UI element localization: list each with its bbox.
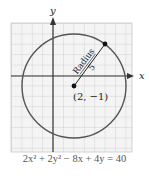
circle-point (103, 42, 108, 47)
center-label: (2, −1) (73, 91, 108, 102)
center-point (72, 84, 77, 89)
y-axis-label: y (49, 5, 56, 16)
grid (11, 23, 132, 152)
circle-diagram: x y Radius 5 (2, −1) (0, 0, 149, 176)
x-axis-label: x (139, 70, 145, 81)
y-axis-arrow-icon (50, 17, 56, 25)
equation: 2x² + 2y² − 8x + 4y = 40 (0, 153, 149, 164)
